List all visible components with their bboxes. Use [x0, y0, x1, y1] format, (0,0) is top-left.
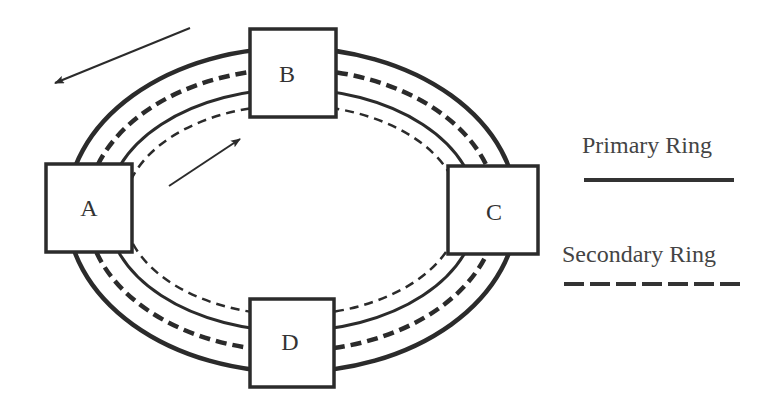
- node-b[interactable]: B: [250, 29, 336, 117]
- legend: Primary Ring Secondary Ring: [562, 132, 742, 284]
- node-c-label: C: [486, 199, 502, 225]
- node-d-label: D: [281, 329, 298, 355]
- legend-secondary-label: Secondary Ring: [562, 241, 716, 267]
- inner-primary-ring: [107, 89, 477, 331]
- clockwise-arrow-icon: [169, 139, 240, 186]
- legend-primary-label: Primary Ring: [582, 132, 712, 158]
- node-b-label: B: [279, 61, 295, 87]
- inner-secondary-ring: [124, 105, 460, 315]
- node-a[interactable]: A: [46, 164, 132, 252]
- node-c[interactable]: C: [448, 166, 538, 254]
- node-d[interactable]: D: [250, 299, 334, 387]
- dual-ring-diagram: A B C D Primary Ring Secondary Ring: [0, 0, 778, 419]
- node-a-label: A: [80, 195, 98, 221]
